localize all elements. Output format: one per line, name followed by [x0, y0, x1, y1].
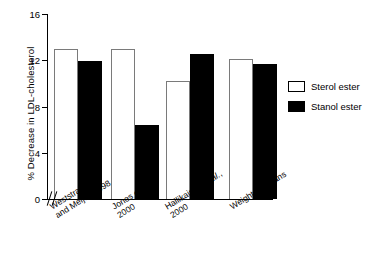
bar-sterol-hallikainen [166, 81, 190, 199]
y-tick-mark [42, 107, 47, 108]
y-axis-line [47, 14, 48, 199]
bar-sterol-jones [111, 49, 135, 199]
y-tick-label: 16 [29, 9, 40, 20]
y-tick-label: 8 [35, 101, 40, 112]
y-axis-label: % Decrease in LDL-cholesterol [25, 14, 36, 214]
y-tick-label: 0 [35, 194, 40, 205]
legend-item-sterol-ester: Sterol ester [288, 78, 362, 95]
legend: Sterol ester Stanol ester [288, 78, 362, 118]
ldl-cholesterol-bar-chart: % Decrease in LDL-cholesterol 0 4 8 12 1… [0, 0, 376, 276]
legend-label-sterol-ester: Sterol ester [311, 81, 360, 92]
bar-sterol-weighted-means [229, 59, 253, 199]
plot-area: 0 4 8 12 16 [47, 14, 272, 199]
y-tick-label: 4 [35, 147, 40, 158]
legend-swatch-sterol-ester [288, 81, 305, 92]
legend-item-stanol-ester: Stanol ester [288, 98, 362, 115]
y-tick-mark [42, 14, 47, 15]
legend-swatch-stanol-ester [288, 101, 305, 112]
y-tick-mark [42, 60, 47, 61]
bar-sterol-weststrate [54, 49, 78, 199]
y-tick-mark [42, 153, 47, 154]
legend-label-stanol-ester: Stanol ester [311, 101, 362, 112]
y-tick-label: 12 [29, 55, 40, 66]
